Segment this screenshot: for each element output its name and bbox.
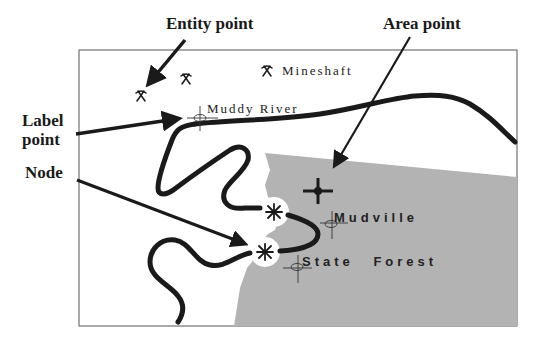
area-point-callout: Area point — [383, 14, 461, 33]
mudville-label: Mudville — [334, 210, 418, 225]
state-forest-area — [234, 153, 517, 326]
entity-point-callout: Entity point — [166, 14, 253, 33]
node-asterisk-icon — [266, 204, 282, 220]
muddy-river-label: Muddy River — [207, 101, 299, 116]
label-point-callout-line1: Label — [22, 111, 64, 130]
map-diagram: Mineshaft Muddy River Mudville State For… — [0, 0, 541, 345]
label-point-callout-line2: point — [22, 130, 60, 149]
state-forest-label: State Forest — [302, 254, 437, 269]
mineshaft-label: Mineshaft — [282, 63, 353, 78]
node-asterisk-icon — [257, 244, 273, 260]
node-callout: Node — [25, 163, 63, 182]
